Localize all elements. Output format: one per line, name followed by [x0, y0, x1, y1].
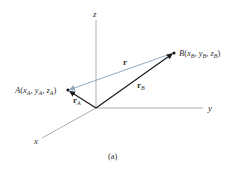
y-axis-label: y: [207, 103, 212, 113]
vector-r-label: r: [123, 57, 127, 67]
point-B-label: B(xB, yB, zB): [179, 48, 220, 59]
figure-caption: (a): [108, 151, 118, 161]
vector-rB: [96, 54, 172, 108]
x-axis: [42, 108, 96, 138]
vector-rB-label: rB: [137, 80, 145, 91]
position-vector-diagram: z y x A(xA, yA, zA) B(xB, yB, zB) r rB r…: [0, 0, 243, 171]
vector-r: [70, 53, 173, 90]
z-axis-label: z: [92, 9, 97, 19]
point-B-close: ): [217, 48, 220, 58]
vector-rB-sub: B: [141, 85, 145, 91]
point-B-dot: [172, 51, 175, 54]
point-A-dot: [66, 88, 69, 91]
point-A-close: ): [53, 85, 56, 95]
vector-rA-sub: A: [76, 100, 81, 106]
point-A-label: A(xA, yA, zA): [14, 85, 56, 96]
x-axis-label: x: [33, 136, 38, 146]
